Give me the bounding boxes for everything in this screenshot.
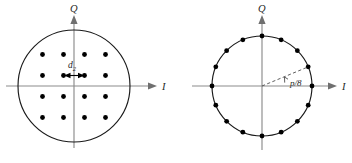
constellation-point	[82, 94, 87, 99]
constellation-point	[295, 48, 300, 53]
constellation-point	[103, 52, 108, 57]
psk-q-axis-label: Q	[258, 3, 266, 14]
qam-q-axis-label: Q	[70, 3, 78, 14]
constellation-point	[260, 34, 265, 39]
constellation-point	[310, 84, 315, 89]
constellation-point	[210, 84, 215, 89]
constellation-point	[40, 94, 45, 99]
constellation-point	[240, 37, 245, 42]
constellation-point	[224, 119, 229, 124]
psk-i-axis-label: I	[341, 81, 346, 92]
qam-i-axis-arrowhead	[148, 82, 157, 89]
panel-16qam: d2 Q I	[0, 0, 176, 163]
qam-q-axis-arrowhead	[70, 15, 77, 24]
psk-canvas: p/8 Q I	[176, 0, 352, 163]
psk-angle-label: p/8	[289, 78, 302, 88]
constellation-point	[213, 103, 218, 108]
constellation-point	[103, 115, 108, 120]
qam-canvas: d2 Q I	[0, 0, 176, 163]
constellation-point	[103, 94, 108, 99]
constellation-point	[82, 115, 87, 120]
constellation-point	[40, 73, 45, 78]
constellation-point	[279, 37, 284, 42]
constellation-point	[295, 119, 300, 124]
constellation-point	[224, 48, 229, 53]
constellation-point	[103, 73, 108, 78]
constellation-figure: d2 Q I	[0, 0, 352, 163]
constellation-point	[61, 94, 66, 99]
constellation-point	[61, 52, 66, 57]
constellation-point	[213, 64, 218, 69]
qam-i-axis-label: I	[161, 81, 166, 92]
constellation-point	[40, 115, 45, 120]
psk-i-axis-arrowhead	[328, 82, 337, 89]
panel-16psk: p/8 Q I	[176, 0, 352, 163]
constellation-point	[279, 130, 284, 135]
constellation-point	[260, 134, 265, 139]
psk-q-axis-arrowhead	[258, 15, 265, 24]
constellation-point	[240, 130, 245, 135]
constellation-point	[306, 103, 311, 108]
constellation-point	[82, 52, 87, 57]
qam-distance-subscript: 2	[73, 65, 77, 72]
qam-distance-label: d2	[68, 60, 77, 72]
constellation-point	[40, 52, 45, 57]
psk-angle-tick	[285, 77, 289, 83]
constellation-point	[306, 64, 311, 69]
constellation-point	[61, 115, 66, 120]
